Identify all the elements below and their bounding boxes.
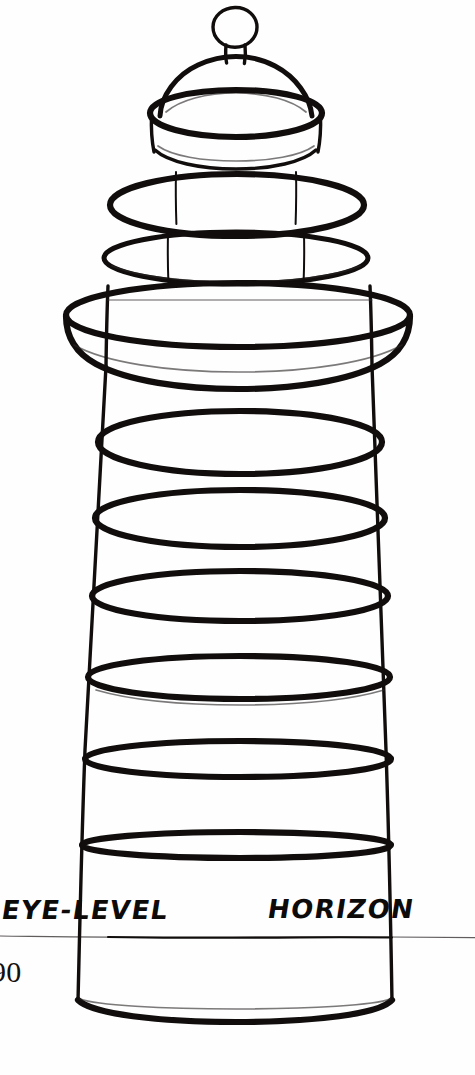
- shaft-band-2: [95, 490, 385, 547]
- upper-gallery-ring: [110, 172, 364, 236]
- eye-level-label: EYE-LEVEL: [0, 897, 171, 923]
- shaft-band-3: [92, 571, 388, 621]
- mid-gallery-ring: [104, 232, 368, 284]
- lantern-room-cylinder: [150, 90, 322, 169]
- main-gallery-drum: [66, 283, 410, 389]
- shaft-band-4: [88, 656, 390, 705]
- shaft-band-1: [98, 411, 382, 474]
- tower-base-ellipse: [78, 999, 392, 1022]
- shaft-band-5: [85, 741, 391, 777]
- shaft-band-6: [82, 832, 391, 858]
- horizon-label: HORIZON: [266, 896, 416, 922]
- lantern-dome: [160, 57, 312, 117]
- eye-level-horizon-line: [0, 936, 475, 938]
- page-number: 90: [0, 955, 22, 989]
- shaft-band-ellipses: [82, 411, 391, 858]
- drawing-page: EYE-LEVEL HORIZON 90: [0, 0, 475, 1075]
